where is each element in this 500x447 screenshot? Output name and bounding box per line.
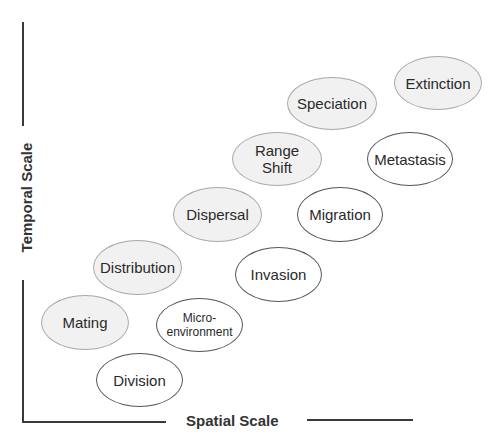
x-axis-right-line — [307, 419, 413, 421]
node-label-line2: Shift — [262, 159, 292, 176]
node-label: Speciation — [297, 95, 367, 112]
x-axis-label: Spatial Scale — [186, 412, 279, 429]
y-axis-top-line — [22, 22, 24, 126]
node-extinction: Extinction — [394, 56, 482, 110]
node-label-line1: Micro- — [183, 311, 216, 325]
y-axis-label: Temporal Scale — [18, 138, 35, 258]
node-dispersal: Dispersal — [173, 187, 262, 242]
node-label: Metastasis — [374, 151, 446, 168]
node-metastasis: Metastasis — [367, 132, 453, 186]
node-label: Division — [113, 372, 166, 389]
node-range-shift: Range Shift — [232, 132, 322, 186]
x-axis-left-line — [22, 421, 166, 423]
node-label: Invasion — [251, 266, 307, 283]
node-label: Mating — [62, 314, 107, 331]
node-label-line2: environment — [166, 325, 232, 339]
node-label-line1: Range — [255, 142, 299, 159]
node-microenvironment: Micro- environment — [156, 298, 243, 352]
node-label: Dispersal — [186, 206, 249, 223]
node-speciation: Speciation — [287, 77, 377, 130]
node-invasion: Invasion — [235, 247, 322, 302]
node-division: Division — [96, 353, 183, 407]
y-axis-bottom-line — [22, 280, 24, 422]
node-label: Distribution — [100, 259, 175, 276]
node-label: Migration — [309, 206, 371, 223]
node-label: Extinction — [405, 75, 470, 92]
node-mating: Mating — [41, 295, 129, 350]
node-migration: Migration — [297, 187, 383, 242]
node-distribution: Distribution — [93, 240, 182, 295]
